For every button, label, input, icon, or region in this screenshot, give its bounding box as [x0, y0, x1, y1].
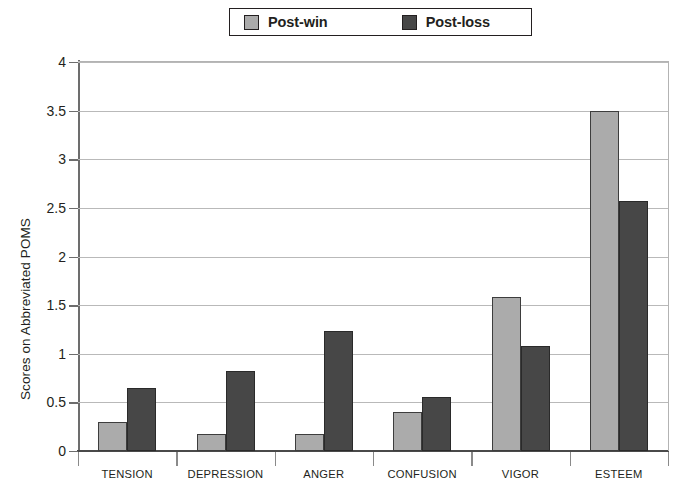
y-axis-tick-label: 1	[58, 346, 66, 362]
x-axis-separator	[668, 452, 669, 466]
x-axis-separator	[570, 452, 571, 466]
post-win-swatch-icon	[244, 15, 259, 30]
y-axis-tick-label: 3.5	[47, 103, 66, 119]
bar-esteem-post-win	[590, 111, 619, 451]
bar-anger-post-win	[295, 434, 324, 451]
x-axis-separator	[373, 452, 374, 466]
gridline	[78, 305, 668, 306]
legend-label-post-win: Post-win	[268, 14, 328, 30]
y-axis-tick-label: 0	[58, 443, 66, 459]
post-loss-swatch-icon	[402, 15, 417, 30]
x-axis-label-confusion: CONFUSION	[387, 468, 456, 480]
y-axis-tick-mark	[69, 208, 78, 209]
gridline	[78, 62, 668, 63]
x-axis-label-tension: TENSION	[101, 468, 152, 480]
x-axis-label-depression: DEPRESSION	[188, 468, 264, 480]
bar-confusion-post-win	[393, 412, 422, 451]
x-axis-separator	[78, 452, 79, 466]
y-axis-tick-mark	[69, 354, 78, 355]
legend-entry-post-win: Post-win	[244, 9, 328, 35]
legend-label-post-loss: Post-loss	[426, 14, 490, 30]
x-axis-separator	[471, 452, 472, 466]
bar-esteem-post-loss	[619, 201, 648, 451]
x-axis-separator	[275, 452, 276, 466]
y-axis-tick-label: 2.5	[47, 200, 66, 216]
bar-depression-post-loss	[226, 371, 255, 451]
y-axis-title-text: Scores on Abbreviated POMS	[18, 218, 33, 400]
chart-legend: Post-win Post-loss	[229, 8, 532, 36]
gridline	[78, 111, 668, 112]
gridline	[78, 257, 668, 258]
bar-confusion-post-loss	[422, 397, 451, 451]
gridline	[78, 402, 668, 403]
x-axis-label-vigor: VIGOR	[502, 468, 539, 480]
y-axis-tick-mark	[69, 111, 78, 112]
y-axis-tick-mark	[69, 305, 78, 306]
bar-depression-post-win	[197, 434, 226, 451]
x-axis-label-esteem: ESTEEM	[595, 468, 643, 480]
bar-anger-post-loss	[324, 331, 353, 451]
y-axis-tick-mark	[69, 451, 78, 452]
y-axis-tick-label: 0.5	[47, 394, 66, 410]
y-axis-tick-mark	[69, 402, 78, 403]
bar-tension-post-loss	[127, 388, 156, 451]
y-axis-tick-label: 1.5	[47, 297, 66, 313]
gridline	[78, 208, 668, 209]
x-axis-separator	[176, 452, 177, 466]
bar-vigor-post-loss	[521, 346, 550, 451]
y-axis-tick-mark	[69, 159, 78, 160]
y-axis-tick-mark	[69, 257, 78, 258]
y-axis-tick-label: 2	[58, 249, 66, 265]
bar-tension-post-win	[98, 422, 127, 451]
y-axis-tick-label: 3	[58, 151, 66, 167]
legend-entry-post-loss: Post-loss	[402, 9, 490, 35]
gridline	[78, 354, 668, 355]
bar-vigor-post-win	[492, 297, 521, 451]
x-axis-label-anger: ANGER	[303, 468, 344, 480]
y-axis-tick-mark	[69, 62, 78, 63]
plot-area: 43.532.521.510.50	[78, 61, 669, 451]
y-axis-title: Scores on Abbreviated POMS	[0, 0, 20, 494]
gridline	[78, 159, 668, 160]
y-axis-tick-label: 4	[58, 54, 66, 70]
